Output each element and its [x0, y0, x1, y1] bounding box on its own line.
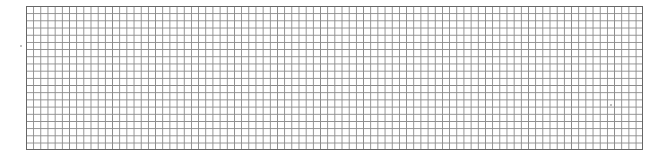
graph-paper-grid [26, 6, 643, 150]
speck-mark [610, 104, 612, 106]
speck-mark [20, 45, 22, 47]
